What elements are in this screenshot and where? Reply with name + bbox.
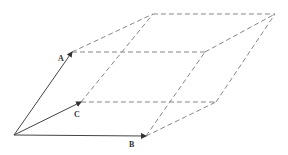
dashed-edge-c-ac [81,14,153,102]
vector-a-arrow [14,52,72,135]
parallelepiped-diagram: ABC [0,0,288,155]
vector-a-label: A [58,54,64,63]
vectors [14,52,146,136]
dashed-edge-b-ab [146,52,205,136]
vector-c-arrow [14,102,81,135]
dashed-edge-b-bc [146,102,216,136]
vector-b-label: B [129,140,135,149]
dashed-edge-a-ac [72,14,153,52]
dashed-edge-bc-abc [216,14,275,102]
dashed-edges [72,14,275,136]
dashed-edge-ab-abc [205,14,275,52]
vector-b-arrow [14,135,146,136]
vector-c-label: C [74,110,80,119]
